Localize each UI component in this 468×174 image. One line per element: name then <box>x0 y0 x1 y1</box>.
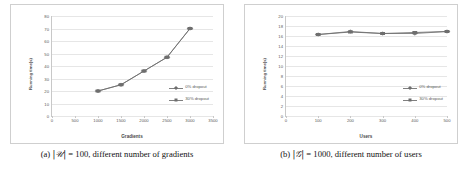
data-point-marker <box>142 70 147 73</box>
x-tick-mark <box>447 116 448 118</box>
legend-item[interactable]: 30% dropout <box>169 97 209 102</box>
y-tick-label: 6 <box>281 85 283 89</box>
legend-a: 0% dropout30% dropout <box>169 85 209 102</box>
legend-item[interactable]: 0% dropout <box>403 85 443 90</box>
y-tick-label: 18 <box>278 25 283 29</box>
legend-swatch-icon <box>403 97 417 102</box>
x-tick-label: 300 <box>379 119 386 123</box>
legend-item[interactable]: 0% dropout <box>169 85 209 90</box>
y-tick-label: 10 <box>278 65 283 69</box>
y-tick-label: 4 <box>281 95 283 99</box>
x-tick-label: 3500 <box>208 119 217 123</box>
x-tick-label: 400 <box>411 119 418 123</box>
y-tick-label: 16 <box>278 35 283 39</box>
data-point-marker <box>412 31 417 34</box>
plot-area-b: 02468101214161820 0100200300400500 0% dr… <box>285 16 447 117</box>
legend-swatch-icon <box>169 85 183 90</box>
y-tick-label: 2 <box>281 105 283 109</box>
y-tick-label: 12 <box>278 55 283 59</box>
caption-a-prefix: (a) <box>41 149 51 159</box>
legend-b: 0% dropout30% dropout <box>403 85 443 102</box>
x-tick-label: 0 <box>285 119 287 123</box>
legend-label: 30% dropout <box>419 97 443 101</box>
y-tick-label: 20 <box>278 15 283 19</box>
data-point-marker <box>348 31 353 34</box>
x-tick-label: 500 <box>72 119 79 123</box>
series-line <box>98 29 190 92</box>
caption-b-prefix: (b) <box>280 149 290 159</box>
y-tick-label: 70 <box>44 27 49 31</box>
legend-label: 0% dropout <box>419 85 440 89</box>
caption-a-symbol: |𝒰| <box>52 149 66 159</box>
data-point-marker <box>445 30 450 33</box>
legend-swatch-icon <box>403 85 417 90</box>
y-tick-label: 10 <box>44 102 49 106</box>
x-tick-label: 200 <box>347 119 354 123</box>
x-tick-label: 500 <box>444 119 451 123</box>
chart-b: Running time(s) Users 02468101214161820 … <box>244 4 458 144</box>
y-axis-title-b: Running time(s) <box>263 58 267 90</box>
x-tick-label: 1000 <box>93 119 102 123</box>
chart-a: Running time(s) Gradients 01020304050607… <box>10 4 224 144</box>
x-tick-label: 100 <box>315 119 322 123</box>
caption-b-symbol: |𝒢| <box>292 149 304 159</box>
caption-b: (b) |𝒢| = 1000, different number of user… <box>280 149 422 160</box>
y-tick-label: 0 <box>47 115 49 119</box>
y-tick-label: 40 <box>44 65 49 69</box>
x-tick-mark <box>383 116 384 118</box>
x-tick-mark <box>213 116 214 118</box>
y-tick-label: 14 <box>278 45 283 49</box>
gridline: 0 <box>52 116 213 117</box>
data-point-marker <box>165 56 170 59</box>
caption-a-rest: = 100, different number of gradients <box>68 149 193 159</box>
x-tick-mark <box>167 116 168 118</box>
y-tick-label: 20 <box>44 90 49 94</box>
y-tick-label: 50 <box>44 52 49 56</box>
x-tick-label: 0 <box>51 119 53 123</box>
data-point-marker <box>119 83 124 86</box>
y-axis-title-a: Running time(s) <box>29 58 33 90</box>
x-tick-mark <box>98 116 99 118</box>
y-tick-label: 60 <box>44 40 49 44</box>
x-tick-mark <box>190 116 191 118</box>
legend-label: 30% dropout <box>185 97 209 101</box>
x-tick-label: 2500 <box>162 119 171 123</box>
x-tick-mark <box>52 116 53 118</box>
legend-swatch-icon <box>169 97 183 102</box>
x-tick-mark <box>121 116 122 118</box>
figure-row: Running time(s) Gradients 01020304050607… <box>0 0 468 174</box>
x-tick-mark <box>350 116 351 118</box>
x-tick-label: 1500 <box>116 119 125 123</box>
series-line <box>98 29 190 92</box>
caption-b-rest: = 1000, different number of users <box>306 149 421 159</box>
caption-a: (a) |𝒰| = 100, different number of gradi… <box>41 149 194 160</box>
data-point-marker <box>380 32 385 35</box>
gridline: 0 <box>286 116 447 117</box>
y-tick-label: 30 <box>44 77 49 81</box>
data-point-marker <box>96 90 101 93</box>
x-axis-title-a: Gradients <box>51 135 213 140</box>
x-tick-mark <box>75 116 76 118</box>
legend-item[interactable]: 30% dropout <box>403 97 443 102</box>
data-point-marker <box>316 33 321 36</box>
x-tick-label: 3000 <box>185 119 194 123</box>
plot-area-a: 01020304050607080 0500100015002000250030… <box>51 16 213 117</box>
y-tick-label: 80 <box>44 15 49 19</box>
subfigure-b: Running time(s) Users 02468101214161820 … <box>234 0 468 174</box>
subfigure-a: Running time(s) Gradients 01020304050607… <box>0 0 234 174</box>
x-axis-title-b: Users <box>285 135 447 140</box>
x-tick-mark <box>286 116 287 118</box>
data-point-marker <box>188 27 193 30</box>
x-tick-mark <box>318 116 319 118</box>
x-tick-label: 2000 <box>139 119 148 123</box>
y-tick-label: 0 <box>281 115 283 119</box>
x-tick-mark <box>415 116 416 118</box>
y-tick-label: 8 <box>281 75 283 79</box>
x-tick-mark <box>144 116 145 118</box>
legend-label: 0% dropout <box>185 85 206 89</box>
